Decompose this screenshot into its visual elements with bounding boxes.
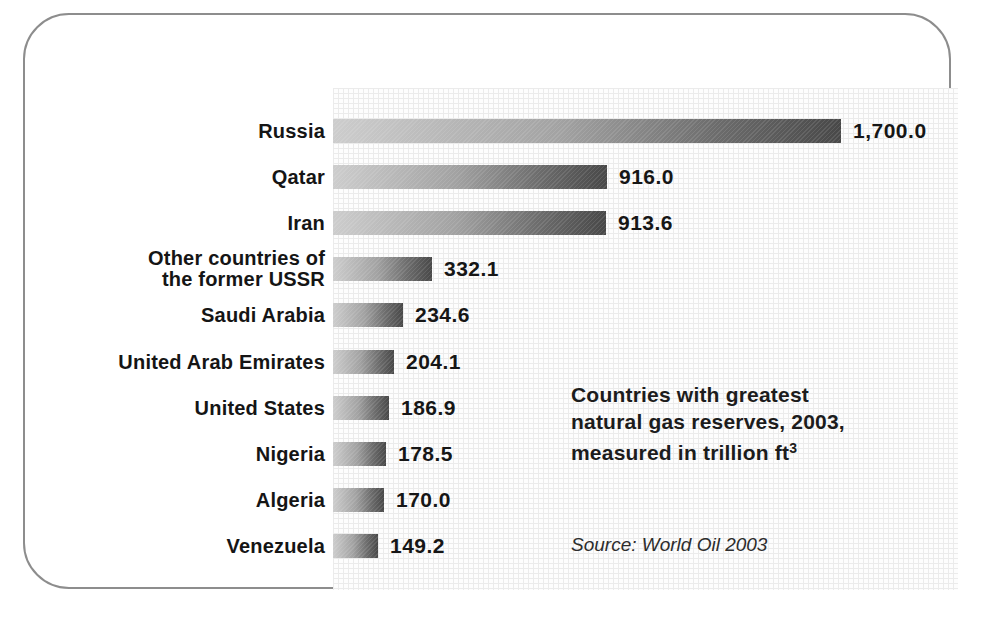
superscript-3: 3 bbox=[789, 440, 797, 456]
category-label: Nigeria bbox=[53, 443, 325, 464]
category-label: Algeria bbox=[53, 490, 325, 511]
category-label: Iran bbox=[53, 212, 325, 233]
bar bbox=[333, 534, 378, 558]
bar bbox=[333, 165, 607, 189]
chart-panel: Russia1,700.0Qatar916.0Iran913.6Other co… bbox=[23, 13, 951, 589]
bar bbox=[333, 211, 606, 235]
bar bbox=[333, 119, 841, 143]
bar bbox=[333, 396, 389, 420]
bar-value-label: 913.6 bbox=[618, 211, 673, 235]
plot-grid bbox=[333, 88, 958, 590]
bar bbox=[333, 442, 386, 466]
category-label: Russia bbox=[53, 120, 325, 141]
category-label: United Arab Emirates bbox=[53, 351, 325, 372]
bar-value-label: 204.1 bbox=[406, 350, 461, 374]
category-label: Qatar bbox=[53, 166, 325, 187]
bar-value-label: 149.2 bbox=[390, 534, 445, 558]
source-note: Source: World Oil 2003 bbox=[571, 534, 767, 556]
bar-value-label: 1,700.0 bbox=[853, 119, 927, 143]
bar-value-label: 234.6 bbox=[415, 303, 470, 327]
bar-value-label: 178.5 bbox=[398, 442, 453, 466]
figure-canvas: Russia1,700.0Qatar916.0Iran913.6Other co… bbox=[0, 0, 1001, 625]
bar bbox=[333, 488, 384, 512]
bar bbox=[333, 350, 394, 374]
category-label: Venezuela bbox=[53, 536, 325, 557]
chart-title-line-3: measured in trillion ft3 bbox=[571, 435, 845, 466]
chart-title-line-1: Countries with greatest bbox=[571, 381, 845, 408]
bar-value-label: 916.0 bbox=[619, 165, 674, 189]
bar-value-label: 186.9 bbox=[401, 396, 456, 420]
bar-value-label: 170.0 bbox=[396, 488, 451, 512]
bar bbox=[333, 257, 432, 281]
bar bbox=[333, 303, 403, 327]
category-label: Other countries of the former USSR bbox=[53, 248, 325, 290]
chart-title: Countries with greatest natural gas rese… bbox=[571, 381, 845, 466]
bar-value-label: 332.1 bbox=[444, 257, 499, 281]
category-label: United States bbox=[53, 397, 325, 418]
chart-title-line-2: natural gas reserves, 2003, bbox=[571, 408, 845, 435]
category-label: Saudi Arabia bbox=[53, 305, 325, 326]
